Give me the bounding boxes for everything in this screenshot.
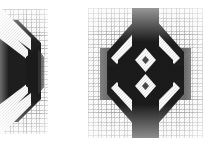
right-bottom-dark-apex [134,118,157,138]
left-figure-panel [0,9,48,134]
right-figure-panel [88,8,203,138]
right-figure-artwork [88,8,203,138]
left-ink-falloff [38,49,44,95]
figure-pair-container [0,0,211,144]
right-top-dark-apex [134,8,157,28]
left-figure-artwork [0,9,48,134]
